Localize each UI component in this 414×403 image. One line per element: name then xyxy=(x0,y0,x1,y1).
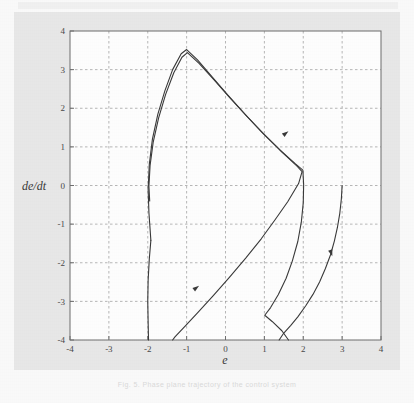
y-tick-label: 1 xyxy=(61,142,66,152)
y-tick-label: 2 xyxy=(61,103,66,113)
y-tick-label: 4 xyxy=(61,26,66,36)
x-tick-label: 2 xyxy=(301,344,306,354)
phase-plane-chart: -4-3-2-101234 -4-3-2-101234 e de/dt xyxy=(0,0,414,403)
x-tick-label: 3 xyxy=(340,344,345,354)
y-tick-label: -1 xyxy=(58,219,66,229)
y-tick-label: -3 xyxy=(58,297,66,307)
x-tick-label: 4 xyxy=(379,344,384,354)
figure-caption: Fig. 5. Phase plane trajectory of the co… xyxy=(0,381,414,388)
x-tick-label: -1 xyxy=(183,344,191,354)
y-axis-label: de/dt xyxy=(22,179,47,193)
plot-area: -4-3-2-101234 -4-3-2-101234 xyxy=(58,26,384,354)
y-tick-label: 3 xyxy=(61,65,66,75)
x-tick-label: -3 xyxy=(105,344,113,354)
y-tick-label: -4 xyxy=(58,335,66,345)
x-tick-label: -2 xyxy=(144,344,152,354)
y-tick-label: 0 xyxy=(61,181,66,191)
x-tick-label: 1 xyxy=(262,344,267,354)
x-axis-label: e xyxy=(222,353,228,367)
x-tick-label: -4 xyxy=(66,344,74,354)
y-tick-label: -2 xyxy=(58,258,66,268)
